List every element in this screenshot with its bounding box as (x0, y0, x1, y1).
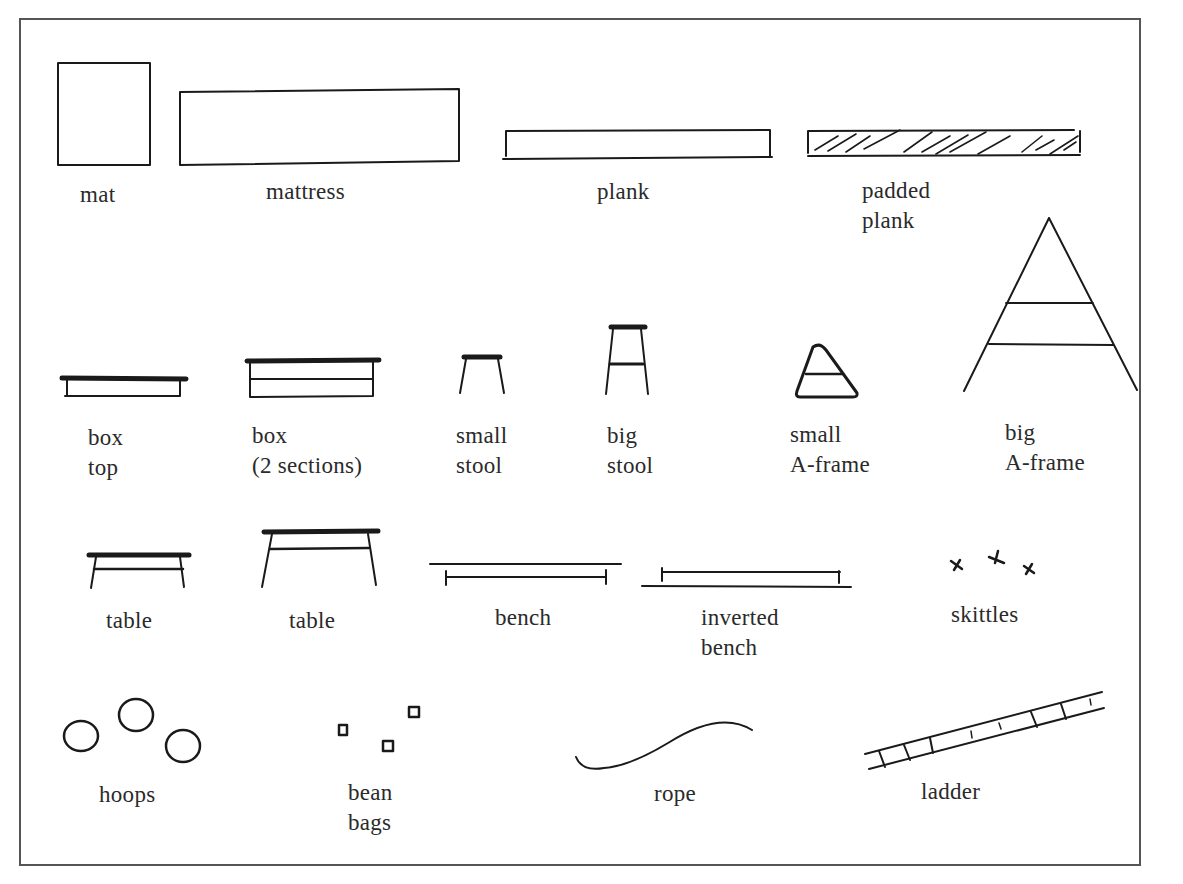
bench-icon (430, 564, 621, 585)
label-mattress: mattress (266, 177, 345, 207)
box-top-icon (62, 378, 186, 396)
label-big-a-frame: bigA-frame (1005, 418, 1085, 478)
big-a-frame-icon (964, 218, 1137, 391)
label-skittles: skittles (951, 600, 1019, 630)
skittles-icon (951, 551, 1034, 574)
label-big-stool: bigstool (607, 421, 653, 481)
mattress-icon (180, 89, 459, 165)
plank-icon (503, 130, 772, 159)
label-mat: mat (80, 180, 115, 210)
hoops-icon (64, 699, 200, 762)
rope-icon (576, 722, 752, 768)
label-table-high: table (289, 606, 335, 636)
label-bean-bags: beanbags (348, 778, 393, 838)
table-high-icon (262, 531, 378, 587)
label-inverted-bench: invertedbench (701, 603, 779, 663)
label-small-stool: smallstool (456, 421, 507, 481)
small-a-frame-icon (796, 345, 857, 397)
bean-bags-icon (339, 707, 419, 751)
label-hoops: hoops (99, 780, 155, 810)
label-ladder: ladder (921, 777, 980, 807)
padded-plank-icon (808, 130, 1080, 156)
label-padded-plank: paddedplank (862, 176, 930, 236)
label-box-top: boxtop (88, 423, 123, 483)
label-rope: rope (654, 779, 696, 809)
label-bench: bench (495, 603, 551, 633)
ladder-icon (865, 692, 1104, 769)
table-low-icon (89, 555, 189, 588)
small-stool-icon (460, 357, 504, 393)
inverted-bench-icon (642, 568, 851, 587)
label-plank: plank (597, 177, 650, 207)
box-two-sections-icon (247, 360, 379, 397)
label-table-low: table (106, 606, 152, 636)
big-stool-icon (606, 327, 648, 394)
label-small-a-frame: smallA-frame (790, 420, 870, 480)
label-box-two-sections: box(2 sections) (252, 421, 362, 481)
mat-icon (58, 63, 150, 165)
